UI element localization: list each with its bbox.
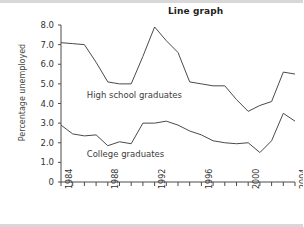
x-tick-label: 1988: [111, 169, 120, 189]
x-tick-label: 1996: [205, 169, 214, 189]
series-label: College graduates: [87, 149, 165, 159]
line-chart-plot: [0, 0, 303, 227]
series-line: [61, 113, 295, 152]
x-tick-label: 1992: [158, 169, 167, 189]
x-tick-label: 1984: [65, 169, 74, 189]
x-tick-label: 2004: [299, 169, 304, 189]
series-label: High school graduates: [87, 90, 182, 100]
x-tick-label: 2000: [252, 169, 261, 189]
